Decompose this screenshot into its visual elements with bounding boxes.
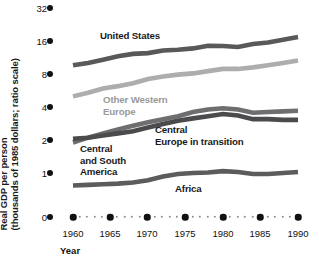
series-label-other-western-europe: Other Western Europe (103, 94, 168, 117)
series-line (73, 61, 298, 97)
series-label-africa: Africa (175, 183, 202, 195)
series-label-central-and-south-america: Central and South America (80, 143, 126, 178)
series-label-united-states: United States (100, 30, 160, 42)
series-label-central-europe-in-transition: Central Europe in transition (155, 124, 244, 147)
chart-figure: Real GDP per person (thousands of 1985 d… (0, 0, 319, 270)
